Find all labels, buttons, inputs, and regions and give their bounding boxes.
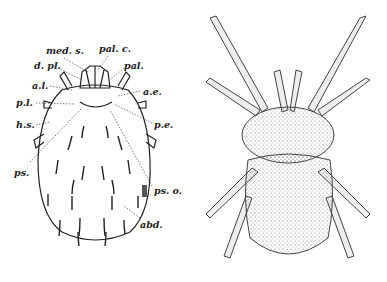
- label-pal-c: pal. c.: [99, 44, 131, 54]
- label-a-l: a.l.: [32, 81, 48, 91]
- label-h-s: h.s.: [16, 120, 35, 130]
- labeled-mite-diagram: med. s. pal. c. d. pl. pal. a.l. a.e. p.…: [0, 0, 190, 282]
- label-med-s: med. s.: [46, 46, 84, 56]
- label-ps-o: ps. o.: [154, 186, 182, 196]
- label-d-pl: d. pl.: [34, 61, 61, 71]
- label-a-e: a.e.: [143, 87, 162, 97]
- mite-outline-drawing: [0, 0, 190, 282]
- hairy-mite-drawing: [190, 0, 387, 282]
- label-ps: ps.: [14, 168, 29, 178]
- label-pal: pal.: [124, 61, 144, 71]
- stippled-mite-illustration: [190, 0, 387, 282]
- label-p-e: p.e.: [154, 120, 173, 130]
- label-abd: abd.: [140, 220, 163, 230]
- label-p-l: p.l.: [16, 98, 33, 108]
